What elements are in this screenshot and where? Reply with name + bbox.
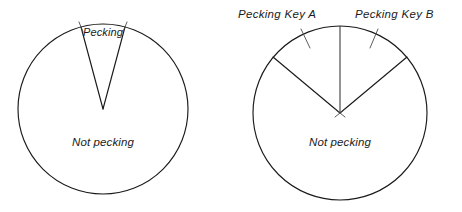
right-sector-label-not-pecking: Not pecking [309, 136, 371, 148]
right-circle-group [253, 26, 427, 200]
right-sector-edge-b [340, 57, 407, 113]
diagram-canvas [0, 0, 462, 212]
left-sector-label-not-pecking: Not pecking [72, 136, 134, 148]
right-sector-label-key-a: Pecking Key A [238, 8, 316, 20]
left-sector-edge-right [103, 27, 125, 109]
left-circle-group [18, 22, 188, 194]
left-sector-label-pecking: Pecking [83, 26, 123, 38]
left-sector-edge-left [81, 27, 103, 109]
right-sector-label-key-b: Pecking Key B [355, 8, 434, 20]
figure-container: Pecking Not pecking Pecking Key A Peckin… [0, 0, 462, 212]
right-sector-edge-a [273, 57, 340, 113]
